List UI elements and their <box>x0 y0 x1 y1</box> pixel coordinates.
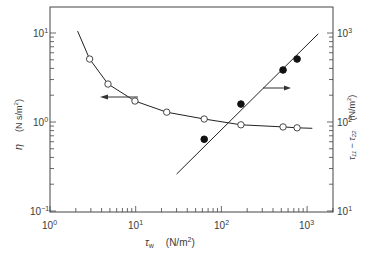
svg-text:η(N s/m2): η(N s/m2) <box>12 99 24 150</box>
right-axis-arrow-icon <box>263 86 291 91</box>
open-circle-point <box>132 98 138 104</box>
open-circle-point <box>105 81 111 87</box>
open-circle-point <box>238 122 244 128</box>
y-left-tick-labels: 101 100 10−1 <box>30 27 49 217</box>
filled-circle-point <box>238 101 245 108</box>
open-circle-point <box>164 109 170 115</box>
x-tick-labels: 100 101 102 103 <box>42 219 314 231</box>
svg-text:103: 103 <box>299 219 314 231</box>
filled-circle-point <box>294 56 301 63</box>
x-axis-label: τw(N/m2) <box>145 236 195 249</box>
y-right-tick-labels: 103 102 101 <box>337 27 352 217</box>
svg-text:103: 103 <box>337 27 352 39</box>
open-circle-point <box>294 125 300 131</box>
svg-text:101: 101 <box>33 27 48 39</box>
plot-frame <box>50 7 333 212</box>
y-left-axis-label: η(N s/m2) <box>12 99 24 150</box>
chart-figure: 100 101 102 103 101 100 10−1 103 102 101… <box>0 0 373 255</box>
svg-text:102: 102 <box>214 219 229 231</box>
svg-text:100: 100 <box>42 219 57 231</box>
open-circle-point <box>280 124 286 130</box>
fit-curves <box>78 31 319 174</box>
data-points <box>86 56 300 143</box>
open-circle-point <box>201 116 207 122</box>
filled-circle-point <box>280 67 287 74</box>
svg-text:101: 101 <box>128 219 143 231</box>
svg-text:100: 100 <box>33 116 48 128</box>
svg-text:101: 101 <box>337 205 352 217</box>
open-circle-point <box>86 56 92 62</box>
svg-text:10−1: 10−1 <box>30 205 49 217</box>
filled-circle-point <box>201 136 208 143</box>
